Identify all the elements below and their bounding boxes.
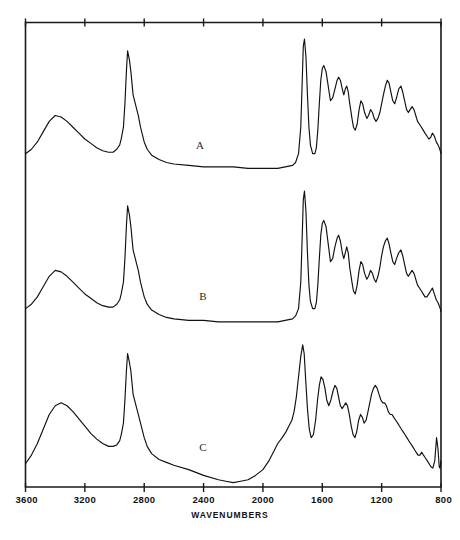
axis-ticks: [26, 19, 442, 493]
trace-label-a: A: [196, 139, 204, 151]
spectrum-trace-c: [26, 345, 442, 483]
spectra-traces: [26, 39, 442, 483]
x-axis-title: WAVENUMBERS: [191, 510, 268, 520]
spectrum-trace-a: [26, 39, 442, 168]
x-tick-label: 2400: [192, 494, 214, 505]
trace-label-b: B: [199, 290, 206, 302]
x-axis-tick-labels: 3600320028002400200016001200800: [16, 494, 453, 505]
plot-frame: [26, 23, 442, 488]
x-tick-label: 1200: [370, 494, 392, 505]
trace-label-c: C: [199, 441, 206, 453]
spectrum-trace-b: [26, 191, 442, 322]
x-tick-label: 1600: [311, 494, 333, 505]
x-tick-label: 2800: [133, 494, 155, 505]
ftir-spectra-figure: 3600320028002400200016001200800 WAVENUMB…: [0, 0, 460, 540]
x-tick-label: 3600: [16, 494, 38, 505]
x-tick-label: 3200: [74, 494, 96, 505]
x-tick-label: 800: [435, 494, 452, 505]
spectra-plot: 3600320028002400200016001200800 WAVENUMB…: [0, 0, 460, 540]
x-tick-label: 2000: [252, 494, 274, 505]
